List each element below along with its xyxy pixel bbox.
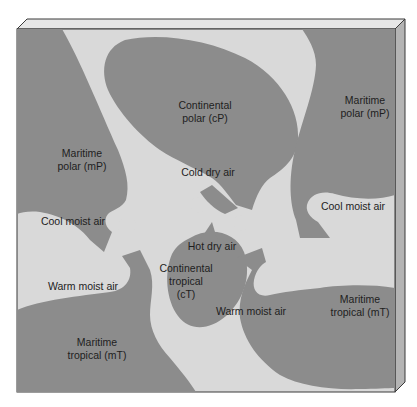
- label-ct: Continental tropical (cT): [146, 262, 226, 301]
- label-cp: Continental polar (cP): [160, 99, 250, 125]
- flow-head-cool-moist-east: [233, 215, 249, 231]
- box-top-face: [17, 19, 405, 29]
- label-mp-west: Maritime polar (mP): [42, 147, 122, 173]
- label-cold-dry-air: Cold dry air: [168, 166, 248, 179]
- flow-head-cold-dry: [190, 197, 206, 213]
- label-hot-dry-air: Hot dry air: [172, 240, 252, 253]
- label-warm-moist-air-west: Warm moist air: [38, 280, 128, 293]
- flow-head-cool-moist-west: [118, 217, 136, 235]
- label-mt-west: Maritime tropical (mT): [52, 336, 142, 362]
- label-mt-east: Maritime tropical (mT): [315, 293, 405, 319]
- air-mass-diagram: Maritime polar (mP) Continental polar (c…: [0, 0, 417, 407]
- label-cool-moist-air-west: Cool moist air: [28, 215, 118, 228]
- label-mp-east: Maritime polar (mP): [330, 94, 400, 120]
- label-warm-moist-air-east: Warm moist air: [206, 305, 296, 318]
- label-cool-moist-air-east: Cool moist air: [308, 200, 398, 213]
